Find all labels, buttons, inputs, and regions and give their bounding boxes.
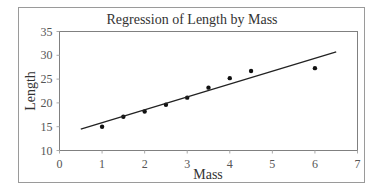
x-tick-label: 0 bbox=[57, 157, 63, 171]
y-tick-label: 15 bbox=[41, 120, 53, 134]
chart: Regression of Length by Mass 10152025303… bbox=[0, 0, 380, 194]
x-tick-label: 2 bbox=[142, 157, 148, 171]
x-tick-label: 7 bbox=[355, 157, 361, 171]
x-tick-label: 3 bbox=[184, 157, 190, 171]
x-tick-label: 1 bbox=[99, 157, 105, 171]
y-tick-label: 30 bbox=[41, 48, 53, 62]
y-tick-label: 20 bbox=[41, 96, 53, 110]
x-axis-title: Mass bbox=[193, 167, 223, 182]
x-tick-label: 4 bbox=[227, 157, 233, 171]
data-point bbox=[206, 85, 210, 89]
chart-title: Regression of Length by Mass bbox=[106, 12, 277, 27]
data-point bbox=[228, 76, 232, 80]
x-tick-label: 5 bbox=[269, 157, 275, 171]
x-tick-label: 6 bbox=[312, 157, 318, 171]
data-point bbox=[249, 69, 253, 73]
y-tick-label: 25 bbox=[41, 72, 53, 86]
y-axis-title: Length bbox=[23, 71, 38, 111]
y-tick-label: 10 bbox=[41, 144, 53, 158]
data-point bbox=[313, 66, 317, 70]
y-tick-label: 35 bbox=[41, 25, 53, 39]
data-point bbox=[100, 125, 104, 129]
